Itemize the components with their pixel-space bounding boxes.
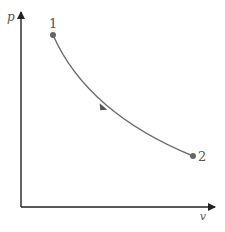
state-label-2: 2 [198, 149, 206, 164]
process-curve [53, 35, 193, 156]
state-point-1 [50, 32, 56, 38]
x-axis-label: v [200, 210, 207, 223]
state-point-2 [190, 153, 196, 159]
y-axis-label: p [7, 10, 15, 24]
state-label-1: 1 [49, 16, 57, 31]
direction-arrow-icon [100, 103, 108, 111]
pv-diagram: p v 1 2 [0, 0, 225, 232]
